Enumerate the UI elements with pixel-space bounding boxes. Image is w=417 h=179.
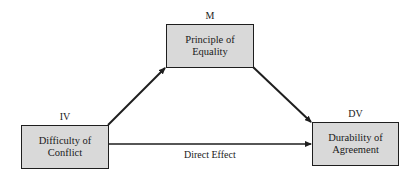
edge-iv-to-m [108, 68, 165, 125]
mediation-diagram: M Principle of Equality IV Difficulty of… [0, 0, 417, 179]
mediator-box: Principle of Equality [166, 24, 254, 68]
iv-role-label: IV [21, 111, 109, 122]
direct-effect-label: Direct Effect [184, 149, 236, 160]
mediator-text: Principle of Equality [167, 34, 253, 58]
dv-text-line2: Agreement [332, 144, 379, 156]
edge-m-to-dv [253, 67, 311, 122]
iv-box: Difficulty of Conflict [21, 125, 109, 169]
mediator-role-label: M [166, 10, 254, 21]
dv-text-line1: Durability of [328, 132, 383, 144]
iv-text-line1: Difficulty of [39, 135, 92, 147]
dv-role-label: DV [312, 108, 399, 119]
iv-text-line2: Conflict [48, 147, 82, 159]
dv-box: Durability of Agreement [312, 122, 399, 166]
